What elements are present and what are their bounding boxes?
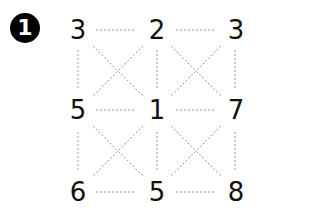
cell-r1-c1: 3: [63, 15, 93, 45]
cell-r3-c3: 8: [221, 177, 251, 207]
cell-r2-c1: 5: [63, 95, 93, 125]
cell-r3-c1: 6: [63, 177, 93, 207]
cell-r2-c2: 1: [142, 95, 172, 125]
cell-r3-c2: 5: [142, 177, 172, 207]
cell-r1-c3: 3: [221, 15, 251, 45]
cell-r2-c3: 7: [221, 95, 251, 125]
cell-r1-c2: 2: [142, 15, 172, 45]
